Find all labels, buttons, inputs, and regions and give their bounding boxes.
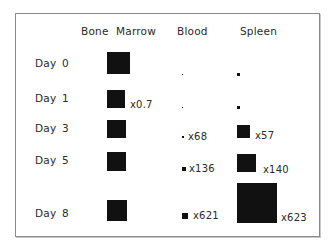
header-bone: Bone: [81, 25, 109, 37]
day-number: 3: [62, 122, 69, 134]
blood-square: [182, 74, 183, 75]
bone-marrow-square: [107, 152, 126, 171]
day-label: Day: [35, 57, 56, 69]
day-label: Day: [35, 122, 56, 134]
day-label: Day: [35, 154, 56, 166]
spleen-square: [237, 154, 256, 172]
spleen-square: [237, 73, 240, 76]
day-number: 0: [62, 57, 69, 69]
spleen-multiplier: x623: [281, 212, 307, 224]
blood-multiplier: x136: [189, 163, 215, 175]
blood-square: [182, 167, 186, 171]
bone-marrow-square: [107, 90, 125, 108]
day-number: 1: [62, 92, 69, 104]
day-label: Day: [35, 207, 56, 219]
blood-multiplier: x621: [193, 210, 219, 222]
spleen-multiplier: x140: [263, 164, 289, 176]
header-blood: Blood: [177, 25, 208, 37]
header-spleen: Spleen: [240, 25, 277, 37]
blood-multiplier: x68: [188, 131, 207, 143]
spleen-square: [237, 125, 250, 138]
day-label: Day: [35, 92, 56, 104]
bone-marrow-square: [107, 200, 127, 221]
bone-marrow-square: [107, 120, 126, 138]
blood-square: [182, 107, 183, 108]
spleen-square: [237, 106, 240, 109]
blood-square: [182, 136, 184, 138]
day-number: 5: [62, 154, 69, 166]
header-marrow: Marrow: [116, 25, 156, 37]
spleen-multiplier: x57: [255, 130, 274, 142]
bone-marrow-square: [107, 52, 130, 74]
spleen-square: [237, 183, 277, 223]
bone-marrow-multiplier: x0.7: [130, 99, 153, 111]
blood-square: [182, 213, 188, 219]
day-number: 8: [62, 207, 69, 219]
